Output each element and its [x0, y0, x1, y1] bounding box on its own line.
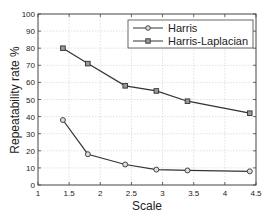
data-point: [86, 61, 91, 66]
x-tick-label: 1.5: [64, 189, 76, 198]
data-point: [61, 46, 66, 51]
y-tick-label: 100: [22, 10, 36, 19]
x-tick-label: 3: [160, 189, 165, 198]
series-harris-laplacian: [61, 46, 252, 116]
data-point: [247, 169, 252, 174]
data-point: [185, 99, 190, 104]
y-tick-label: 40: [26, 113, 35, 122]
y-axis-label: Repeatability rate %: [8, 46, 22, 154]
y-tick-label: 80: [26, 44, 35, 53]
x-tick-label: 4.5: [250, 189, 262, 198]
square-marker-icon: [146, 39, 150, 43]
data-point: [60, 118, 65, 123]
data-point: [247, 111, 252, 116]
legend: Harris Harris-Laplacian: [128, 20, 253, 48]
x-tick-label: 1: [36, 189, 41, 198]
y-tick-label: 30: [26, 130, 35, 139]
x-tick-label: 2.5: [126, 189, 138, 198]
data-point: [85, 152, 90, 157]
y-tick-label: 50: [26, 96, 35, 105]
data-point: [154, 89, 159, 94]
x-tick-label: 3.5: [188, 189, 200, 198]
data-point: [123, 84, 128, 89]
data-point: [123, 162, 128, 167]
legend-label-harris: Harris: [168, 22, 198, 34]
x-tick-label: 2: [98, 189, 103, 198]
y-tick-label: 60: [26, 78, 35, 87]
y-tick-label: 0: [31, 181, 36, 190]
series-harris: [60, 118, 252, 174]
legend-label-harris-laplacian: Harris-Laplacian: [168, 35, 248, 47]
x-tick-label: 4: [223, 189, 228, 198]
repeatability-chart: 11.522.533.544.50102030405060708090100 H…: [0, 0, 269, 218]
x-axis-label: Scale: [132, 199, 162, 213]
y-tick-label: 70: [26, 61, 35, 70]
y-tick-label: 20: [26, 147, 35, 156]
circle-marker-icon: [146, 26, 151, 31]
y-tick-label: 90: [26, 27, 35, 36]
y-tick-label: 10: [26, 164, 35, 173]
data-point: [154, 167, 159, 172]
data-point: [185, 168, 190, 173]
